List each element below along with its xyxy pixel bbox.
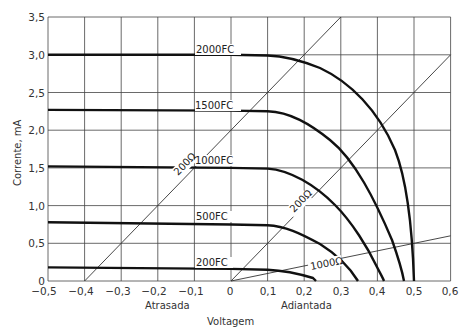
x-axis-label: Voltagem xyxy=(207,316,254,327)
x-tick: −0,4 xyxy=(68,285,94,297)
x-tick: 0,3 xyxy=(333,285,350,297)
label-1000fc: 1000FC xyxy=(195,155,233,166)
x-tick: 0,6 xyxy=(442,285,459,297)
label-2000fc: 2000FC xyxy=(196,44,234,55)
y-axis-label: Corrente, mA xyxy=(12,119,23,186)
y-tick: 2,5 xyxy=(28,87,45,99)
x-tick: 0,2 xyxy=(296,285,313,297)
y-tick: 2,0 xyxy=(28,124,45,136)
region-label-atrasada: Atrasada xyxy=(145,300,190,311)
iv-chart: 2000FC 1500FC 1000FC 500FC 200FC 200Ω 20… xyxy=(0,0,465,330)
label-load-1000: 1000Ω xyxy=(309,255,344,272)
label-1500fc: 1500FC xyxy=(195,100,233,111)
x-tick: −0,1 xyxy=(178,285,204,297)
y-ticks: 0 0,5 1,0 1,5 2,0 2,5 3,0 3,5 xyxy=(28,11,45,287)
curve-500fc xyxy=(48,222,358,281)
label-load-200-right: 200Ω xyxy=(288,187,315,214)
x-tick: −0,5 xyxy=(31,285,57,297)
y-tick: 3,0 xyxy=(28,49,45,61)
y-tick: 1,5 xyxy=(28,162,45,174)
y-tick: 0,5 xyxy=(28,237,45,249)
label-200fc: 200FC xyxy=(196,257,228,268)
region-label-adiantada: Adiantada xyxy=(281,300,332,311)
x-tick: 0,4 xyxy=(369,285,386,297)
label-500fc: 500FC xyxy=(196,211,228,222)
load-line-200-left xyxy=(85,17,341,281)
curve-200fc xyxy=(48,267,316,281)
x-tick: 0 xyxy=(227,285,234,297)
curve-labels: 2000FC 1500FC 1000FC 500FC 200FC xyxy=(195,44,234,268)
x-tick: 0,5 xyxy=(406,285,423,297)
y-tick: 1,0 xyxy=(28,200,45,212)
x-ticks: −0,5 −0,4 −0,3 −0,2 −0,1 0 0,1 0,2 0,3 0… xyxy=(31,285,458,297)
x-tick: −0,2 xyxy=(141,285,167,297)
y-tick: 3,5 xyxy=(28,11,45,23)
x-tick: 0,1 xyxy=(260,285,277,297)
x-tick: −0,3 xyxy=(105,285,131,297)
grid xyxy=(48,17,451,281)
